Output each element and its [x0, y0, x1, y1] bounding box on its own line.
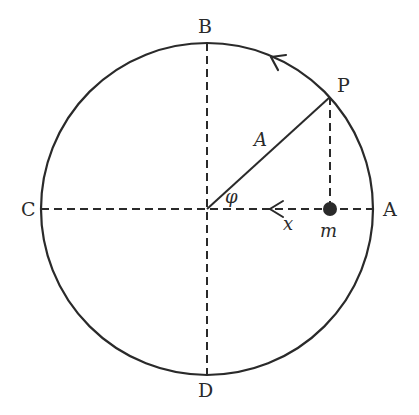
reference-circle-diagram: φ B P C A D A x m [0, 0, 419, 415]
point-c-label: C [21, 198, 36, 220]
point-a-label: A [382, 198, 397, 220]
displacement-label: x [283, 213, 293, 234]
angle-label: φ [225, 186, 238, 207]
mass-label: m [320, 220, 337, 241]
radius-label: A [252, 129, 267, 150]
point-b-label: B [198, 15, 212, 37]
point-p-label: P [337, 74, 350, 96]
point-d-label: D [198, 379, 213, 401]
mass-dot [323, 202, 337, 216]
